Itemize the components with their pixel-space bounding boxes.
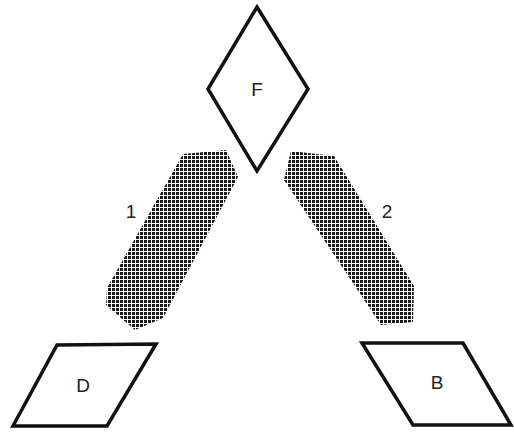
band-1: 1 [106, 150, 238, 330]
node-f-label: F [251, 79, 263, 100]
node-d: D [13, 344, 156, 426]
node-b-label: B [431, 372, 444, 393]
band-2: 2 [284, 151, 414, 325]
hatched-band [284, 151, 414, 325]
node-b: B [362, 343, 511, 425]
hatched-band [106, 150, 238, 330]
diagram-canvas: F 1 2 D B [0, 0, 514, 433]
band-1-label: 1 [126, 201, 137, 222]
band-2-label: 2 [382, 201, 393, 222]
node-f: F [208, 7, 308, 171]
node-d-label: D [76, 375, 90, 396]
